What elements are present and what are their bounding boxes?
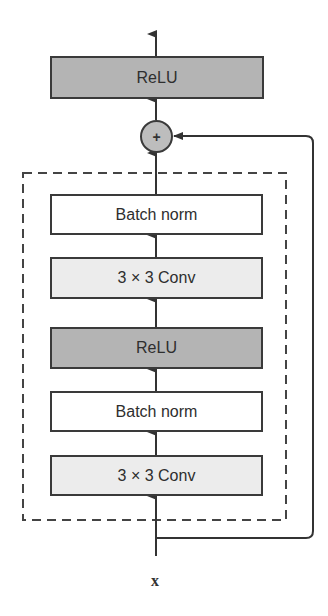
batchnorm-label-2: Batch norm: [116, 403, 198, 421]
conv-label-2: 3 × 3 Conv: [118, 467, 196, 485]
conv-box-2: 3 × 3 Conv: [50, 455, 263, 496]
conv-box-1: 3 × 3 Conv: [50, 257, 263, 299]
output-relu-box: ReLU: [50, 56, 264, 99]
conv-label-1: 3 × 3 Conv: [118, 269, 196, 287]
batchnorm-label-1: Batch norm: [116, 206, 198, 224]
relu-box-inner: ReLU: [50, 327, 263, 369]
plus-icon: +: [152, 129, 160, 145]
sum-node: +: [140, 120, 173, 153]
batchnorm-box-1: Batch norm: [50, 194, 263, 235]
batchnorm-box-2: Batch norm: [50, 391, 263, 432]
input-label: x: [151, 572, 159, 590]
relu-label-inner: ReLU: [136, 339, 177, 357]
output-relu-label: ReLU: [137, 69, 178, 87]
